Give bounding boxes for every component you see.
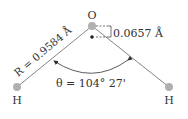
angle-arc	[54, 60, 128, 73]
hydrogen-atom-right	[165, 83, 173, 91]
center-of-mass-dot	[90, 35, 94, 39]
water-molecule-diagram: O H H 0.0657 Å R = 0.9584 Å θ = 104° 27'	[0, 0, 188, 119]
bond-length-label: R = 0.9584 Å	[11, 23, 74, 79]
offset-bracket	[108, 26, 111, 37]
offset-label: 0.0657 Å	[113, 26, 164, 40]
bond-angle-label: θ = 104° 27'	[56, 77, 126, 90]
hydrogen-left-label: H	[12, 94, 22, 107]
oxygen-atom	[88, 22, 96, 30]
oxygen-label: O	[87, 9, 96, 22]
hydrogen-atom-left	[13, 83, 21, 91]
hydrogen-right-label: H	[164, 94, 174, 107]
